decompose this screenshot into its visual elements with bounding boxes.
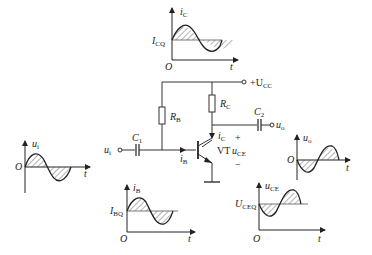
resistor-rb — [159, 107, 165, 124]
graph-ib: iB IBQ O t — [109, 182, 195, 244]
vcc-terminal[interactable] — [242, 80, 246, 84]
ui-terminal[interactable] — [118, 148, 122, 152]
ic-origin: O — [165, 61, 172, 72]
graph-uce: uCE UCEQ O t — [235, 180, 325, 244]
uceq-label: UCEQ — [235, 198, 256, 211]
rb-label: RB — [169, 111, 181, 124]
emitter-arrow — [204, 157, 212, 163]
uo-label: uo — [276, 119, 285, 132]
uo-xlabel: t — [346, 162, 349, 173]
vt-label: VT — [217, 145, 230, 156]
ib-graph-ylabel: iB — [133, 182, 141, 195]
uo-origin: O — [287, 154, 294, 165]
ic-xlabel: t — [230, 61, 233, 72]
c2-label: C2 — [254, 106, 265, 119]
uce-minus: − — [235, 159, 241, 170]
c1-label: C1 — [132, 132, 143, 145]
amplifier-diagram: +UCC RB RC uo C2 ui C1 iB — [0, 0, 372, 255]
graph-ui: ui O t — [15, 138, 90, 193]
ic-label: iC — [218, 130, 226, 143]
ibq-label: IBQ — [109, 205, 123, 218]
uce-label: uCE — [232, 145, 246, 158]
ic-graph-ylabel: iC — [180, 6, 188, 19]
uo-terminal[interactable] — [270, 123, 274, 127]
ib-xlabel: t — [188, 233, 191, 244]
ui-origin: O — [15, 161, 22, 172]
circuit: +UCC RB RC uo C2 ui C1 iB — [104, 77, 285, 182]
ib-label: iB — [180, 153, 188, 166]
ui-xlabel: t — [84, 168, 87, 179]
rc-label: RC — [219, 98, 231, 111]
ui-graph-ylabel: ui — [32, 138, 39, 151]
uce-graph-ylabel: uCE — [265, 180, 279, 193]
vcc-label: +UCC — [250, 77, 273, 90]
ib-origin: O — [120, 233, 127, 244]
uce-plus: + — [235, 132, 241, 143]
uce-xlabel: t — [318, 233, 321, 244]
resistor-rc — [209, 95, 215, 112]
icq-label: ICQ — [151, 35, 165, 48]
uo-graph-ylabel: uo — [303, 132, 312, 145]
ui-label: ui — [104, 144, 111, 157]
graph-uo: uo O t — [287, 132, 350, 180]
uce-origin: O — [253, 233, 260, 244]
graph-ic: iC ICQ O t — [151, 6, 238, 72]
